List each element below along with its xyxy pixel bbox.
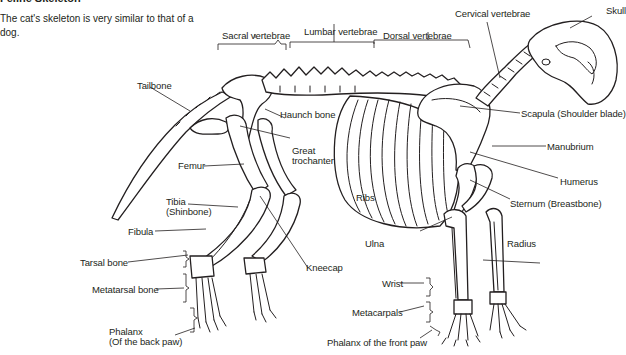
label-sternum: Sternum (Breastbone)	[510, 198, 601, 209]
label-kneecap: Kneecap	[306, 262, 343, 273]
skull-drawing	[528, 21, 617, 104]
label-humerus: Humerus	[560, 176, 598, 187]
label-metatarsal-bone: Metatarsal bone	[92, 284, 159, 295]
label-manubrium: Manubrium	[547, 141, 594, 152]
label-femur: Femur	[178, 160, 205, 171]
label-tarsal-bone: Tarsal bone	[80, 257, 128, 268]
label-sacral-vertebrae: Sacral vertebrae	[222, 30, 290, 41]
label-metacarpals: Metacarpals	[352, 307, 403, 318]
label-ulna: Ulna	[365, 238, 384, 249]
label-phalanx-front: Phalanx of the front paw	[327, 337, 427, 348]
label-dorsal-vertebrae: Dorsal vertebrae	[383, 30, 452, 41]
label-tibia-line2: (Shinbone)	[166, 206, 211, 217]
front-leg-far-drawing	[486, 209, 526, 338]
label-phalanx-back-line2: (Of the back paw)	[109, 336, 182, 347]
label-skull: Skull	[606, 5, 626, 16]
label-great-trochanter-line2: trochanter	[292, 155, 334, 166]
label-ribs: Ribs	[356, 192, 375, 203]
label-cervical-vertebrae: Cervical vertebrae	[455, 8, 530, 19]
label-scapula: Scapula (Shoulder blade)	[521, 108, 626, 119]
hind-leg-near-drawing	[190, 115, 270, 332]
label-lumbar-vertebrae: Lumbar vertebrae	[304, 26, 377, 37]
label-radius: Radius	[507, 238, 536, 249]
label-fibula: Fibula	[128, 226, 153, 237]
label-wrist: Wrist	[382, 278, 403, 289]
label-tailbone: Tailbone	[137, 80, 172, 91]
cat-skeleton-illustration	[0, 0, 626, 355]
label-haunch-bone: Haunch bone	[280, 109, 335, 120]
